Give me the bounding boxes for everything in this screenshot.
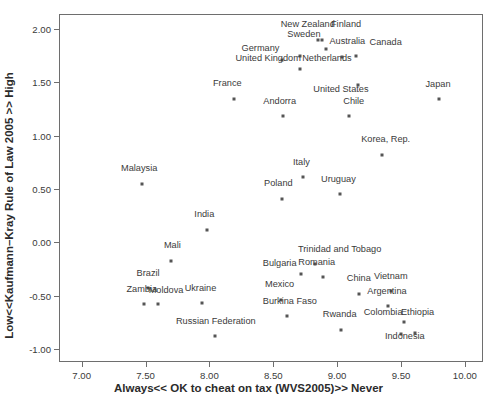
y-tick-label: 0.50 xyxy=(32,184,51,195)
data-point[interactable] xyxy=(157,303,160,306)
data-point[interactable] xyxy=(380,153,383,156)
data-point-label: Vietnam xyxy=(374,272,408,281)
data-point-label: Netherlands xyxy=(302,54,352,63)
y-tick xyxy=(54,136,60,137)
x-tick xyxy=(273,361,274,367)
data-point-label: Trinidad and Tobago xyxy=(298,245,381,254)
x-tick xyxy=(337,361,338,367)
y-tick xyxy=(54,242,60,243)
data-point-label: Malaysia xyxy=(121,164,157,173)
data-point-label: Romania xyxy=(298,258,335,267)
data-point[interactable] xyxy=(232,98,235,101)
y-tick xyxy=(54,82,60,83)
data-point-label: Russian Federation xyxy=(176,317,256,326)
data-point-label: United Kingdom xyxy=(235,54,300,63)
data-point[interactable] xyxy=(140,182,143,185)
data-point[interactable] xyxy=(339,328,342,331)
data-point-label: Ethiopia xyxy=(401,308,434,317)
data-point[interactable] xyxy=(300,273,303,276)
y-tick-label: -1.00 xyxy=(29,344,51,355)
data-point-label: Bulgaria xyxy=(263,259,297,268)
data-point-label: Ukraine xyxy=(185,283,217,292)
x-tick-label: 9.50 xyxy=(392,370,411,381)
data-point-label: Finland xyxy=(331,20,361,29)
data-point[interactable] xyxy=(213,335,216,338)
data-point[interactable] xyxy=(205,228,208,231)
scatter-chart: Low<<Kaufmann–Kray Rule of Law 2005 >> H… xyxy=(0,0,497,411)
x-tick-label: 8.50 xyxy=(264,370,283,381)
data-point-label: France xyxy=(213,78,242,87)
y-tick-label: 2.00 xyxy=(32,23,51,34)
data-point-label: Sweden xyxy=(287,29,320,38)
x-tick-label: 9.00 xyxy=(328,370,347,381)
data-point-label: Mexico xyxy=(265,280,294,289)
x-tick xyxy=(465,361,466,367)
data-point[interactable] xyxy=(286,315,289,318)
data-point-label: United States xyxy=(313,85,368,94)
data-point-label: Chile xyxy=(343,97,364,106)
data-point[interactable] xyxy=(357,292,360,295)
data-point[interactable] xyxy=(143,303,146,306)
data-point[interactable] xyxy=(322,275,325,278)
data-point[interactable] xyxy=(402,321,405,324)
data-point[interactable] xyxy=(324,48,327,51)
x-tick xyxy=(401,361,402,367)
data-point-label: Japan xyxy=(425,80,450,89)
x-tick xyxy=(82,361,83,367)
data-point-label: Burkina Faso xyxy=(263,297,317,306)
data-point-label: Indonesia xyxy=(385,331,425,340)
data-point-label: Canada xyxy=(370,38,402,47)
plot-area: 2.001.501.000.500.00-0.50-1.007.007.508.… xyxy=(59,14,483,362)
y-tick xyxy=(54,29,60,30)
data-point-label: Brazil xyxy=(137,268,160,277)
x-tick xyxy=(209,361,210,367)
data-point-label: Andorra xyxy=(263,97,296,106)
data-point[interactable] xyxy=(438,98,441,101)
data-point-label: Uruguay xyxy=(321,175,356,184)
data-point-label: Australia xyxy=(329,37,365,46)
data-point[interactable] xyxy=(170,259,173,262)
data-point-label: Mali xyxy=(164,241,181,250)
data-point[interactable] xyxy=(338,193,341,196)
data-point-label: Poland xyxy=(264,179,293,188)
data-point[interactable] xyxy=(282,115,285,118)
data-point-label: Italy xyxy=(293,157,310,166)
data-point-label: India xyxy=(194,210,214,219)
y-tick-label: 1.50 xyxy=(32,77,51,88)
x-tick-label: 7.00 xyxy=(72,370,91,381)
data-point-label: Rwanda xyxy=(323,310,357,319)
x-tick-label: 10.00 xyxy=(453,370,477,381)
data-point[interactable] xyxy=(299,68,302,71)
x-axis-title: Always<< OK to cheat on tax (WVS2005)>> … xyxy=(0,382,497,394)
y-tick xyxy=(54,189,60,190)
data-point-label: Moldova xyxy=(149,286,184,295)
data-point-label: Korea, Rep. xyxy=(361,135,410,144)
y-tick-label: 1.00 xyxy=(32,130,51,141)
data-point[interactable] xyxy=(200,302,203,305)
y-axis-title: Low<<Kaufmann–Kray Rule of Law 2005 >> H… xyxy=(0,0,18,411)
data-point[interactable] xyxy=(281,197,284,200)
x-tick xyxy=(146,361,147,367)
y-tick xyxy=(54,349,60,350)
y-tick-label: 0.00 xyxy=(32,237,51,248)
data-point-label: Colombia xyxy=(364,308,403,317)
data-point-label: Argentina xyxy=(367,287,406,296)
data-point-label: China xyxy=(347,274,371,283)
data-point[interactable] xyxy=(347,115,350,118)
data-point[interactable] xyxy=(355,54,358,57)
y-tick xyxy=(54,296,60,297)
x-tick-label: 7.50 xyxy=(136,370,155,381)
data-point[interactable] xyxy=(320,38,323,41)
data-point[interactable] xyxy=(301,176,304,179)
y-tick-label: -0.50 xyxy=(29,290,51,301)
x-tick-label: 8.00 xyxy=(200,370,219,381)
